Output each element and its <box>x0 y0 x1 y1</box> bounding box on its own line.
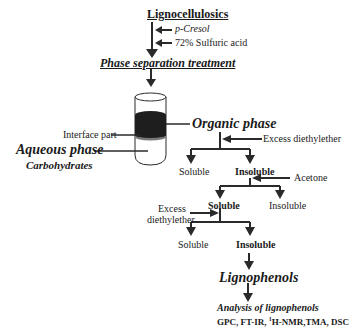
excess-label: Excess <box>158 204 186 214</box>
analysis-title: Analysis of lignophenols <box>217 303 319 313</box>
p-cresol-label: p-Cresol <box>175 24 210 34</box>
diethylether-label: diethylether <box>147 215 195 225</box>
organic-phase-label: Organic phase <box>192 117 276 131</box>
excess-diethylether-label-1: Excess diethylether <box>263 134 341 144</box>
insoluble-label-3: Insoluble <box>236 240 275 250</box>
methods-part-1: GPC, FT-IR, <box>217 317 269 327</box>
analysis-methods: GPC, FT-IR, 1H-NMR,TMA, DSC <box>217 316 349 327</box>
phase-separation-label: Phase separation treatment <box>100 57 235 69</box>
sulfuric-acid-label: 72% Sulfuric acid <box>175 38 247 48</box>
interface-part-label: Interface part <box>63 130 117 140</box>
lignophenols-label: Lignophenols <box>219 271 298 285</box>
acetone-label: Acetone <box>294 173 327 183</box>
insoluble-label-1: Insoluble <box>235 167 274 177</box>
lignocellulosics-label: Lignocellulosics <box>147 8 228 20</box>
aqueous-phase-label: Aqueous phase <box>16 143 104 157</box>
soluble-label-1: Soluble <box>179 167 210 177</box>
soluble-label-3: Soluble <box>178 240 209 250</box>
carbohydrates-label: Carbohydrates <box>26 160 93 171</box>
test-tube-icon <box>135 93 166 165</box>
methods-part-2: H-NMR,TMA, DSC <box>272 317 349 327</box>
insoluble-label-2: Insoluble <box>269 201 306 211</box>
soluble-label-2: Soluble <box>208 201 240 211</box>
flow-diagram: Lignocellulosics p-Cresol 72% Sulfuric a… <box>0 0 357 334</box>
